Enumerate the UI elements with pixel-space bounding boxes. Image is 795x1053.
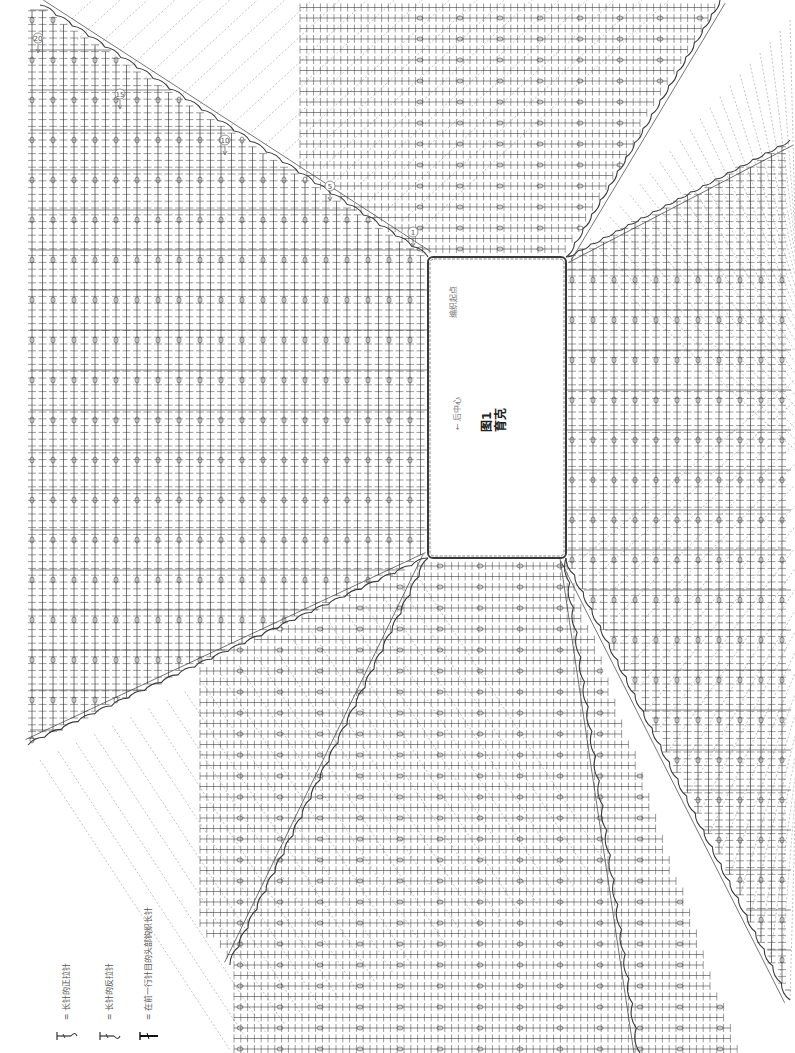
legend-item-back-post: = 长针的反拉针 xyxy=(103,963,114,1020)
svg-text:15: 15 xyxy=(116,91,125,99)
svg-text:5: 5 xyxy=(328,183,332,191)
legend-item-treble-in-top: = 在前一行针目的头部钩织长针 xyxy=(142,907,153,1020)
chart-title-figure: 图1 xyxy=(480,408,494,432)
svg-text:10: 10 xyxy=(221,137,230,145)
legend-text: = 长针的反拉针 xyxy=(105,963,114,1020)
stitch-grid xyxy=(28,4,791,1053)
chart-title-name: 育克 xyxy=(494,408,508,432)
up-arrow-icon: ← xyxy=(453,423,462,430)
legend-text: = 长针的正拉针 xyxy=(62,963,71,1020)
row-marker: 5 xyxy=(325,181,335,201)
legend-item-front-post: = 长针的正拉针 xyxy=(60,963,71,1020)
yoke-crochet-chart: 15101520 xyxy=(0,0,795,1053)
treble-in-top-icon xyxy=(138,1026,162,1046)
legend-text: = 在前一行针目的头部钩织长针 xyxy=(144,907,153,1020)
start-point-label: 编织起点 xyxy=(447,286,458,318)
raglan-increase-lines xyxy=(25,0,792,1053)
back-post-treble-icon xyxy=(98,1026,122,1046)
chart-title: 图1 育克 xyxy=(480,408,508,432)
front-post-treble-icon xyxy=(55,1026,79,1046)
back-center-label: ← 后中心 xyxy=(451,397,462,430)
svg-text:20: 20 xyxy=(34,35,43,43)
svg-text:1: 1 xyxy=(411,229,415,237)
row-marker: 10 xyxy=(220,135,230,155)
back-center-text: 后中心 xyxy=(453,397,462,421)
